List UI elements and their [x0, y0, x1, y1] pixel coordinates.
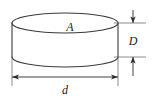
area-label: A [65, 20, 74, 34]
figure-canvas: A D [0, 0, 156, 99]
thickness-dimension: D [114, 10, 146, 76]
diameter-label: d [62, 83, 69, 97]
disk-top-face [12, 13, 118, 33]
disk-dimension-figure: A D [0, 0, 156, 99]
thickness-label: D [128, 34, 138, 48]
disk-solid: A [12, 13, 118, 67]
